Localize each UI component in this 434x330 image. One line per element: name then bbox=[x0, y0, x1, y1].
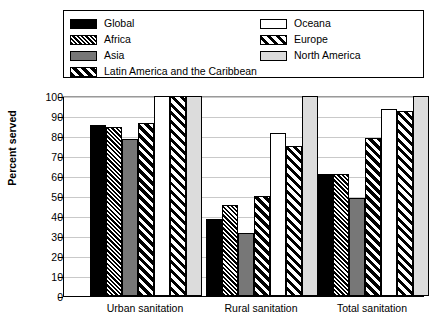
legend-item-oceana: Oceana bbox=[260, 16, 361, 31]
legend-item-label: Latin America and the Caribbean bbox=[104, 66, 257, 77]
bar bbox=[270, 133, 286, 296]
bar bbox=[302, 96, 318, 296]
bar bbox=[238, 233, 254, 296]
legend-swatch-icon bbox=[260, 51, 287, 61]
bar bbox=[106, 127, 122, 296]
bar bbox=[317, 174, 333, 296]
y-tick-mark bbox=[58, 297, 63, 298]
legend-swatch-icon bbox=[70, 19, 97, 29]
x-axis-label: Rural sanitation bbox=[225, 302, 298, 314]
bar-group bbox=[90, 97, 202, 296]
bar-group bbox=[317, 97, 429, 296]
legend-item-label: Oceana bbox=[294, 18, 331, 29]
y-axis-ticks: 0102030405060708090100 bbox=[30, 97, 63, 297]
legend-swatch-icon bbox=[70, 67, 97, 77]
bar bbox=[170, 96, 186, 296]
legend-swatch-icon bbox=[260, 19, 287, 29]
legend-swatch-icon bbox=[260, 35, 287, 45]
plot-area bbox=[63, 97, 424, 297]
bar bbox=[122, 139, 138, 296]
legend-item-label: Europe bbox=[294, 34, 328, 45]
bar bbox=[222, 205, 238, 296]
legend-column-left: GlobalAfricaAsiaLatin America and the Ca… bbox=[70, 16, 257, 80]
bar bbox=[254, 196, 270, 296]
legend-item-north-america: North America bbox=[260, 48, 361, 63]
bar bbox=[154, 96, 170, 296]
bar bbox=[365, 138, 381, 296]
bar bbox=[206, 219, 222, 296]
bar bbox=[90, 125, 106, 296]
x-axis-label: Urban sanitation bbox=[107, 302, 183, 314]
legend-item-asia: Asia bbox=[70, 48, 257, 63]
bar bbox=[186, 96, 202, 296]
legend-column-right: OceanaEuropeNorth America bbox=[260, 16, 361, 64]
legend-item-label: Asia bbox=[104, 50, 124, 61]
legend-item-label: Africa bbox=[104, 34, 131, 45]
legend-swatch-icon bbox=[70, 51, 97, 61]
x-axis-label: Total sanitation bbox=[337, 302, 407, 314]
legend-swatch-icon bbox=[70, 35, 97, 45]
bar-chart: GlobalAfricaAsiaLatin America and the Ca… bbox=[0, 0, 434, 330]
bar-group bbox=[206, 97, 318, 296]
legend-item-europe: Europe bbox=[260, 32, 361, 47]
bar bbox=[286, 146, 302, 296]
legend-item-global: Global bbox=[70, 16, 257, 31]
bar bbox=[397, 111, 413, 296]
bar bbox=[138, 123, 154, 296]
bar bbox=[381, 109, 397, 296]
bar bbox=[333, 174, 349, 296]
y-axis-title: Percent served bbox=[6, 110, 18, 185]
bar bbox=[413, 96, 429, 296]
bar bbox=[349, 198, 365, 296]
chart-legend: GlobalAfricaAsiaLatin America and the Ca… bbox=[63, 10, 424, 78]
legend-item-label: North America bbox=[294, 50, 361, 61]
legend-item-africa: Africa bbox=[70, 32, 257, 47]
legend-item-latin-america-and-the-caribbean: Latin America and the Caribbean bbox=[70, 64, 257, 79]
legend-item-label: Global bbox=[104, 18, 134, 29]
